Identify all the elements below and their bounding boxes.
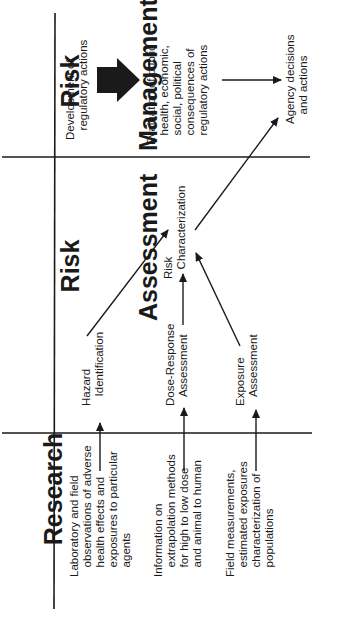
dose-response-assessment: Dose-Response Assessment: [164, 324, 190, 406]
header-research-label: Research: [39, 433, 67, 546]
header-ra-line2: Assessment: [135, 211, 161, 321]
development-of-regulatory-actions: Development of regulatory actions: [64, 40, 90, 140]
research-field-measurements: Field measurements, estimated exposures …: [224, 461, 276, 577]
risk-characterization: Risk Characterization: [162, 186, 188, 279]
agency-decisions: Agency decisions and actions: [284, 35, 310, 125]
research-extrapolation: Information on extrapolation methods for…: [152, 454, 204, 577]
exposure-assessment: Exposure Assessment: [234, 334, 260, 406]
evaluation-of-consequences: Evaluation of public health, economic, s…: [145, 45, 209, 145]
research-observations: Laboratory and field observations of adv…: [68, 445, 132, 577]
header-ra-line1: Risk: [57, 211, 83, 321]
hazard-identification: Hazard Identification: [80, 332, 106, 406]
risk-paradigm-diagram: Research Risk Assessment Risk Management…: [0, 0, 338, 621]
